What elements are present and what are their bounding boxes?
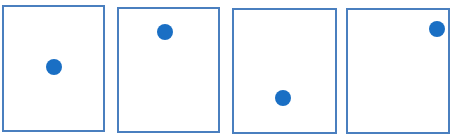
dot-icon (157, 24, 173, 40)
panel-3 (232, 8, 337, 134)
dot-icon (429, 21, 445, 37)
dot-icon (46, 59, 62, 75)
dot-icon (275, 90, 291, 106)
